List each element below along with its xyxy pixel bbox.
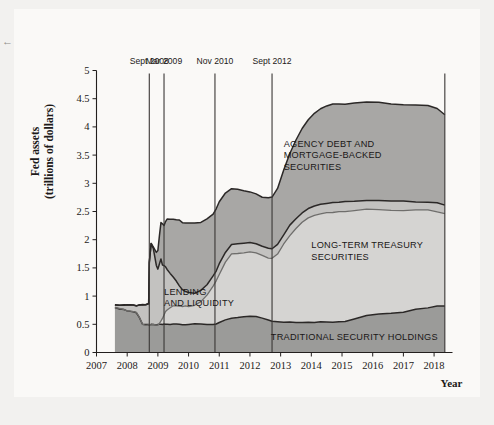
- band-label-agency: MORTGAGE-BACKED: [284, 150, 382, 160]
- y-tick-label: 0.5: [76, 319, 89, 330]
- event-marker-labels: Sept 2008Mar 2009Nov 2010Sept 2012: [130, 56, 292, 66]
- band-label-agency: AGENCY DEBT AND: [284, 139, 375, 149]
- x-tick-label: 2017: [393, 360, 414, 371]
- band-label-lending: LENDING: [164, 287, 207, 297]
- x-tick-label: 2011: [209, 360, 230, 371]
- y-tick-label: 4: [84, 121, 90, 132]
- event-label-sept-2012: Sept 2012: [252, 56, 291, 66]
- band-label-longterm: SECURITIES: [311, 252, 369, 262]
- band-label-traditional: TRADITIONAL SECURITY HOLDINGS: [271, 332, 438, 342]
- x-tick-label: 2015: [332, 360, 353, 371]
- y-tick-label: 0: [84, 347, 89, 358]
- band-label-agency: SECURITIES: [284, 162, 342, 172]
- event-label-nov-2010: Nov 2010: [197, 56, 234, 66]
- x-axis-tick-labels: 2007200820092010201120122013201420152016…: [86, 360, 445, 371]
- x-axis-title: Year: [441, 377, 463, 389]
- band-label-lending: AND LIQUIDITY: [164, 298, 234, 308]
- x-tick-label: 2008: [117, 360, 138, 371]
- x-tick-label: 2018: [424, 360, 445, 371]
- x-tick-label: 2014: [301, 360, 323, 371]
- y-tick-label: 1.5: [76, 262, 89, 273]
- y-tick-label: 2.5: [76, 206, 89, 217]
- y-axis-title-line2: (trillions of dollars): [43, 104, 56, 199]
- fed-assets-stacked-area-chart: 00.511.522.533.544.55 200720082009201020…: [0, 0, 494, 425]
- band-label-longterm: LONG-TERM TREASURY: [311, 240, 423, 250]
- y-tick-label: 3.5: [76, 150, 89, 161]
- y-tick-label: 4.5: [76, 93, 89, 104]
- y-tick-label: 5: [84, 65, 89, 76]
- event-label-mar-2009: Mar 2009: [146, 56, 183, 66]
- y-tick-label: 2: [84, 234, 89, 245]
- y-tick-label: 3: [84, 178, 89, 189]
- x-tick-label: 2013: [270, 360, 291, 371]
- x-tick-label: 2010: [178, 360, 199, 371]
- x-tick-label: 2012: [239, 360, 260, 371]
- y-axis-title-line1: Fed assets: [29, 126, 41, 176]
- x-tick-label: 2016: [362, 360, 383, 371]
- figure-panel: ← 00.511.522.533.544.55 2007200820092010…: [0, 0, 494, 425]
- y-tick-label: 1: [84, 291, 89, 302]
- x-tick-label: 2007: [86, 360, 107, 371]
- x-tick-label: 2009: [147, 360, 168, 371]
- y-axis-tick-labels: 00.511.522.533.544.55: [76, 65, 90, 358]
